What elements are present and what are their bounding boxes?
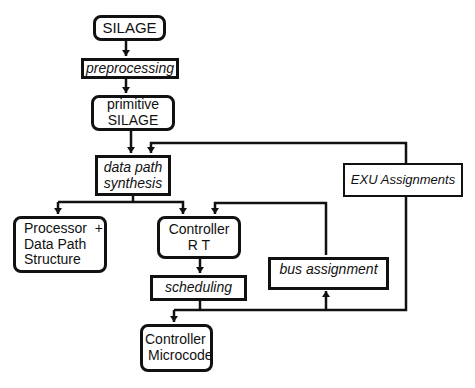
node-label: R T bbox=[188, 238, 210, 254]
node-controller-microcode: Controller Microcode bbox=[140, 324, 213, 372]
node-processor-data-path: Processor + Data Path Structure bbox=[13, 216, 107, 273]
node-scheduling: scheduling bbox=[150, 275, 247, 301]
node-label: data path bbox=[104, 160, 162, 176]
node-primitive-silage: primitive SILAGE bbox=[91, 95, 175, 131]
node-label: SILAGE bbox=[108, 113, 159, 129]
node-label: preprocessing bbox=[86, 61, 174, 77]
node-label: synthesis bbox=[104, 176, 162, 192]
node-label: Controller bbox=[145, 332, 206, 348]
node-label: bus assignment bbox=[279, 262, 377, 278]
node-label: SILAGE bbox=[102, 20, 156, 37]
node-label: EXU Assignments bbox=[351, 173, 455, 188]
node-label: scheduling bbox=[165, 280, 232, 296]
node-exu-assignments: EXU Assignments bbox=[343, 163, 463, 197]
arrow-synthesis-to-controller-rt bbox=[58, 202, 183, 214]
node-label: Microcode bbox=[145, 348, 213, 364]
node-silage: SILAGE bbox=[93, 15, 166, 41]
arrow-exu-to-synthesis bbox=[151, 143, 406, 163]
node-label: Processor + bbox=[24, 221, 103, 237]
node-preprocessing: preprocessing bbox=[81, 58, 179, 79]
node-label: primitive bbox=[107, 97, 159, 113]
node-controller-rt: Controller R T bbox=[157, 216, 241, 259]
node-label: Structure bbox=[24, 252, 81, 268]
node-label: Data Path bbox=[24, 237, 86, 253]
node-label: Controller bbox=[169, 222, 230, 238]
node-data-path-synthesis: data path synthesis bbox=[95, 155, 171, 196]
node-bus-assignment: bus assignment bbox=[268, 257, 389, 290]
